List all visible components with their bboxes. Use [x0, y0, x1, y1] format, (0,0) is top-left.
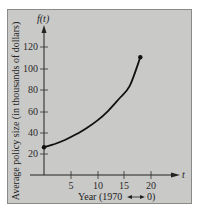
chart-svg: f(t) t 120 100 80 60 40 20 5 10 15 20 Ye…	[0, 0, 202, 215]
y-tick-label: 120	[23, 41, 38, 52]
y-tick-label: 60	[28, 106, 38, 117]
y-tick-label: 100	[23, 63, 38, 74]
x-axis-name: t	[182, 169, 185, 180]
left-arrow-icon	[127, 195, 132, 199]
y-tick-label: 80	[28, 84, 38, 95]
x-tick-label: 15	[119, 180, 129, 191]
data-curve	[44, 57, 140, 147]
right-arrow-icon	[140, 195, 145, 199]
y-axis-title: Average policy size (in thousands of dol…	[10, 22, 22, 201]
y-axis-name: f(t)	[37, 13, 50, 25]
end-point	[138, 55, 142, 59]
x-tick-label: 10	[93, 180, 103, 191]
x-axis-title-zero: 0)	[147, 191, 155, 203]
y-tick-label: 40	[28, 127, 38, 138]
start-point	[42, 145, 46, 149]
y-tick-labels: 120 100 80 60 40 20	[23, 41, 38, 159]
x-axis-title: Year (1970 0)	[78, 191, 155, 203]
x-axis-title-text: Year (1970	[78, 191, 122, 203]
x-tick-label: 20	[146, 180, 156, 191]
x-tick-label: 5	[69, 180, 74, 191]
y-tick-label: 20	[28, 148, 38, 159]
x-tick-labels: 5 10 15 20	[69, 180, 157, 191]
y-axis-arrow-icon	[42, 25, 47, 33]
x-axis-arrow-icon	[171, 173, 180, 178]
